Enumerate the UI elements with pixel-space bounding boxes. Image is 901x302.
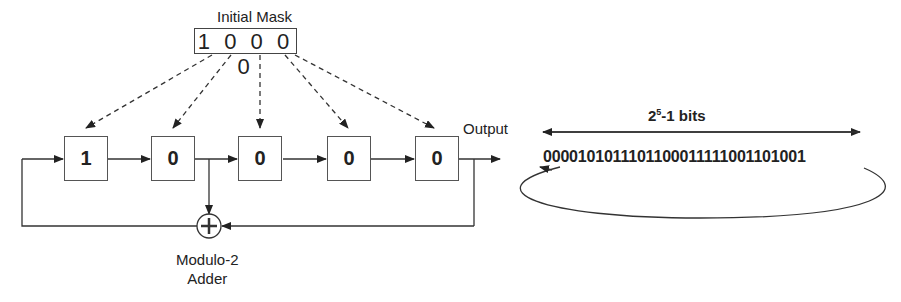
bit-sequence: 0000101011101100011111001101001 bbox=[543, 148, 806, 166]
adder-label: Modulo-2 Adder bbox=[176, 250, 239, 288]
initial-mask-title: Initial Mask bbox=[217, 8, 292, 25]
bits-title: 25-1 bits bbox=[648, 107, 706, 124]
initial-mask-box: 1 0 0 0 0 bbox=[194, 28, 297, 54]
register-2: 0 bbox=[151, 136, 195, 181]
register-5: 0 bbox=[415, 136, 459, 181]
register-3: 0 bbox=[238, 136, 282, 181]
output-label: Output bbox=[463, 120, 508, 137]
adder-label-line2: Adder bbox=[176, 269, 239, 288]
register-1: 1 bbox=[64, 136, 108, 181]
register-4: 0 bbox=[327, 136, 371, 181]
adder-label-line1: Modulo-2 bbox=[176, 250, 239, 269]
bits-title-rest: -1 bits bbox=[661, 107, 705, 124]
